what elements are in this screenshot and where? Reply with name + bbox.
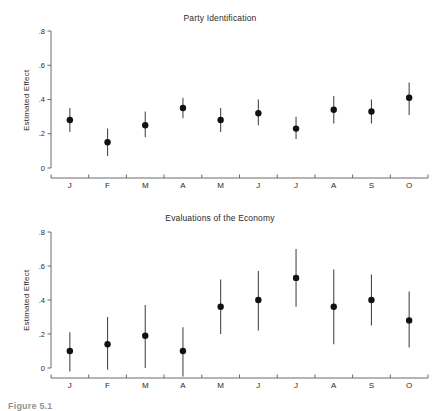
x-tick-label: O bbox=[406, 381, 412, 390]
x-tick-label: J bbox=[256, 181, 260, 190]
x-tick-label: A bbox=[180, 181, 186, 190]
y-tick-label: .6 bbox=[39, 61, 45, 70]
x-tick-label: J bbox=[256, 381, 260, 390]
data-point bbox=[217, 117, 223, 123]
y-tick-label: .8 bbox=[39, 228, 45, 237]
data-point bbox=[104, 341, 110, 347]
x-tick-label: J bbox=[294, 181, 298, 190]
data-point bbox=[331, 107, 337, 113]
data-point bbox=[293, 275, 299, 281]
y-tick-label: .2 bbox=[39, 330, 45, 339]
x-tick-label: J bbox=[294, 381, 298, 390]
x-tick-label: F bbox=[105, 181, 110, 190]
y-tick-label: .6 bbox=[39, 262, 45, 271]
x-tick-label: A bbox=[331, 181, 337, 190]
data-point bbox=[67, 348, 73, 354]
x-tick-label: F bbox=[105, 381, 110, 390]
figure-caption: Figure 5.1 bbox=[8, 401, 53, 411]
data-point bbox=[67, 117, 73, 123]
x-tick-label: M bbox=[142, 381, 149, 390]
data-point bbox=[142, 333, 148, 339]
data-point bbox=[293, 125, 299, 131]
chart-panel-party-identification: Party Identification Estimated Effect 0.… bbox=[0, 0, 440, 200]
data-point bbox=[406, 317, 412, 323]
data-point bbox=[180, 348, 186, 354]
y-tick-label: .8 bbox=[39, 27, 45, 36]
y-tick-label: 0 bbox=[41, 164, 45, 173]
x-tick-label: J bbox=[68, 181, 72, 190]
y-tick-label: .4 bbox=[39, 296, 45, 305]
y-tick-label: 0 bbox=[41, 364, 45, 373]
data-point bbox=[217, 304, 223, 310]
x-tick-label: M bbox=[142, 181, 149, 190]
y-tick-label: .4 bbox=[39, 95, 45, 104]
x-tick-label: J bbox=[68, 381, 72, 390]
data-point bbox=[368, 297, 374, 303]
data-point bbox=[406, 95, 412, 101]
x-tick-label: O bbox=[406, 181, 412, 190]
chart-panel-evaluations-economy: Evaluations of the Economy Estimated Eff… bbox=[0, 200, 440, 395]
plot-area-evaluations-economy: 0.2.4.6.8JFMAMJJASO bbox=[0, 200, 440, 395]
data-point bbox=[331, 304, 337, 310]
plot-area-party-identification: 0.2.4.6.8JFMAMJJASO bbox=[0, 0, 440, 200]
x-tick-label: A bbox=[331, 381, 337, 390]
data-point bbox=[104, 139, 110, 145]
data-point bbox=[142, 122, 148, 128]
data-point bbox=[255, 297, 261, 303]
data-point bbox=[255, 110, 261, 116]
data-point bbox=[368, 108, 374, 114]
y-tick-label: .2 bbox=[39, 129, 45, 138]
x-tick-label: S bbox=[369, 181, 374, 190]
x-tick-label: S bbox=[369, 381, 374, 390]
x-tick-label: M bbox=[217, 181, 224, 190]
x-tick-label: M bbox=[217, 381, 224, 390]
data-point bbox=[180, 105, 186, 111]
x-tick-label: A bbox=[180, 381, 186, 390]
